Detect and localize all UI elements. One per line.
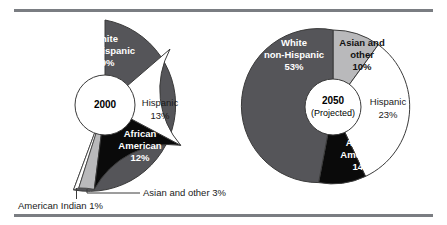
label-asian-and-other-value-2050: 10% (352, 61, 372, 72)
label-hispanic-value-2050: 23% (378, 109, 398, 120)
label-hispanic-line1-2000: Hispanic (142, 97, 179, 108)
label-african-american-line2-2000: American (118, 140, 161, 151)
label-african-american-line1-2050: African (346, 137, 379, 148)
callout-american-indian-2000: American Indian 1% (18, 200, 104, 211)
label-white-non-hispanic-value-2050: 53% (284, 61, 304, 72)
center-label-2000: 2000 (94, 99, 117, 110)
label-hispanic-line1-2050: Hispanic (370, 96, 407, 107)
label-asian-and-other-line2-2050: other (350, 49, 374, 60)
label-african-american-value-2050: 14% (352, 161, 372, 172)
label-hispanic-value-2000: 13% (150, 110, 170, 121)
pie-charts-svg: 2000 White non-Hispanic 69% Hispanic 13%… (0, 0, 447, 225)
center-label-2050: 2050 (322, 95, 345, 106)
label-white-non-hispanic-line2-2000: non-Hispanic (75, 45, 135, 56)
figure-container: 2000 White non-Hispanic 69% Hispanic 13%… (0, 0, 447, 225)
callout-asian-and-other-2000: Asian and other 3% (143, 187, 226, 198)
donut-hole-2050 (305, 79, 361, 135)
label-white-non-hispanic-line1-2050: White (281, 37, 307, 48)
pie-chart-2000: 2000 White non-Hispanic 69% Hispanic 13%… (18, 20, 226, 211)
label-african-american-line1-2000: African (124, 128, 157, 139)
label-asian-and-other-line1-2050: Asian and (339, 37, 385, 48)
pie-chart-2050: 2050 (Projected) White non-Hispanic 53% … (241, 29, 409, 184)
label-white-non-hispanic-value-2000: 69% (95, 57, 115, 68)
center-sublabel-2050: (Projected) (311, 108, 355, 118)
label-white-non-hispanic-line2-2050: non-Hispanic (264, 49, 324, 60)
label-african-american-value-2000: 12% (130, 152, 150, 163)
label-african-american-line2-2050: American (340, 149, 383, 160)
label-white-non-hispanic-line1-2000: White (92, 33, 118, 44)
